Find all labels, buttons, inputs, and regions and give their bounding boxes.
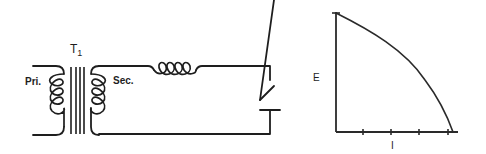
secondary-coil-loops [91, 74, 106, 114]
x-axis-label: I [391, 140, 394, 151]
secondary-top-bend [91, 66, 99, 74]
secondary-winding [91, 66, 106, 135]
transformer-label: T1 [70, 42, 82, 58]
secondary-label: Sec. [113, 75, 134, 86]
diagram-canvas: T1 Pri. Sec. E I [0, 0, 486, 154]
top-wire-left [99, 66, 154, 70]
primary-label: Pri. [25, 76, 41, 87]
circuit-and-graph-svg [0, 0, 486, 154]
inductor-loops [154, 63, 196, 75]
bottom-return-wire [99, 110, 270, 134]
primary-coil-loops [50, 74, 65, 127]
iron-core [71, 67, 84, 134]
primary-bottom-lead [33, 127, 64, 135]
switch-blade [260, 0, 274, 100]
top-wire-right [196, 66, 270, 80]
ei-curve [336, 13, 453, 132]
y-axis-label: E [313, 72, 320, 83]
ei-graph [332, 12, 458, 135]
primary-top-lead [33, 66, 64, 74]
